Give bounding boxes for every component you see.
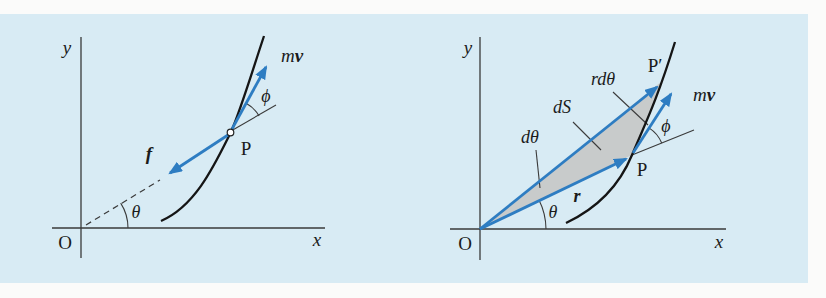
right-radius-label: r [573, 187, 580, 205]
left-x-label: x [313, 230, 321, 249]
left-phi-label: ϕ [261, 87, 270, 105]
right-rdtheta-label: rdθ [591, 70, 615, 88]
left-theta-label: θ [132, 203, 141, 221]
right-p-prime-label: P′ [648, 56, 663, 75]
right-momentum-label: mv [693, 85, 715, 104]
left-diagram [52, 36, 325, 258]
left-y-label: y [63, 38, 71, 57]
right-point-p-label: P [637, 160, 648, 179]
right-theta-arc [539, 200, 546, 229]
right-y-label: y [464, 38, 472, 57]
right-ds-label: dS [553, 98, 571, 116]
left-trajectory-curve [161, 36, 264, 221]
right-dtheta-label: dθ [521, 128, 539, 146]
right-momentum-m: m [693, 84, 707, 105]
left-momentum-label: mv [281, 46, 303, 65]
right-x-label: x [715, 232, 723, 251]
left-force-label: f [146, 144, 152, 163]
left-momentum-v: v [295, 45, 303, 66]
right-phi-label: ϕ [661, 117, 670, 135]
right-diagram [450, 37, 726, 260]
right-origin-label: O [458, 234, 472, 253]
left-point-p-marker [227, 129, 234, 136]
right-theta-label: θ [549, 203, 558, 221]
right-momentum-v: v [707, 84, 715, 105]
figure-page: y x O mv ϕ P f θ y x O P′ rdθ mv dS ϕ dθ… [0, 0, 826, 298]
diagram-canvas [0, 0, 826, 298]
left-dashed-radius-line [86, 180, 160, 225]
right-phi-arc [649, 128, 661, 143]
left-point-p-label: P [241, 139, 252, 158]
left-momentum-m: m [281, 45, 295, 66]
left-origin-label: O [58, 233, 72, 252]
left-theta-arc [121, 203, 128, 228]
left-phi-arc [247, 104, 260, 116]
